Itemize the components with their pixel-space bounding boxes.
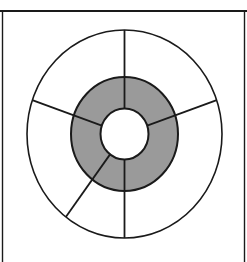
- inner-hub-circle: [101, 109, 149, 160]
- figure-root: [0, 0, 247, 262]
- radial-sector-diagram: [0, 0, 247, 262]
